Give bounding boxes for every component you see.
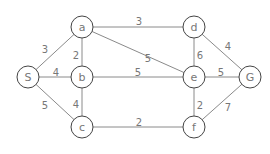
edge-weight-d-G: 4 (225, 41, 231, 52)
edge-weight-a-b: 2 (73, 50, 79, 61)
node-d: d (183, 16, 205, 38)
node-label: e (191, 71, 198, 84)
node-label: c (79, 121, 85, 134)
node-S: S (17, 66, 39, 88)
node-e: e (183, 66, 205, 88)
node-b: b (71, 66, 93, 88)
edge-weight-S-a: 3 (42, 44, 48, 55)
edge-weight-e-f: 2 (197, 100, 203, 111)
edge-weight-b-e: 5 (135, 67, 141, 78)
edge-weight-b-c: 4 (73, 99, 79, 110)
edge-weight-c-f: 2 (136, 117, 142, 128)
node-label: b (79, 71, 86, 84)
node-label: S (25, 71, 32, 84)
node-label: a (79, 21, 86, 34)
edge-weight-a-e: 5 (145, 53, 151, 64)
node-f: f (183, 116, 205, 138)
node-label: G (246, 71, 255, 84)
edge-weight-f-G: 7 (225, 102, 231, 113)
edge-weight-d-e: 6 (197, 50, 203, 61)
node-G: G (239, 66, 261, 88)
edge-weight-e-G: 5 (218, 67, 224, 78)
node-c: c (71, 116, 93, 138)
edge-weight-S-b: 4 (53, 67, 59, 78)
edge-weight-S-c: 5 (42, 100, 48, 111)
edge-weight-a-d: 3 (136, 16, 142, 27)
node-a: a (71, 16, 93, 38)
node-label: d (191, 21, 198, 34)
weighted-graph-diagram: 34532554264527 SabcdefG (0, 0, 270, 154)
